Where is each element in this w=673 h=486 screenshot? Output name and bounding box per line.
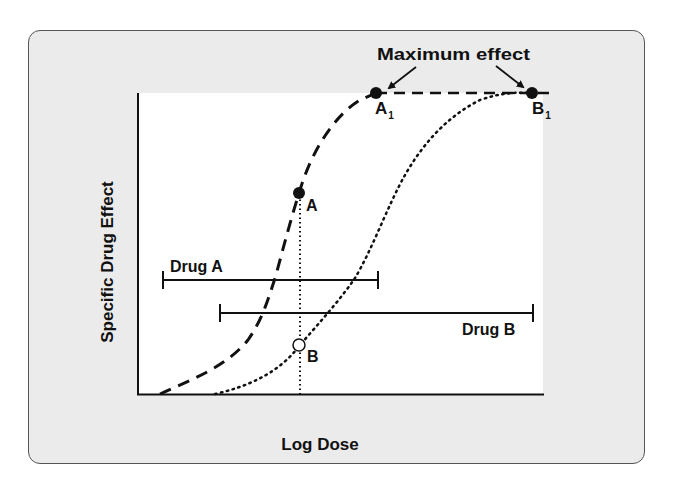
dose-response-chart: Maximum effect A1 B1 A B Drug A Drug B L… — [0, 0, 673, 486]
point-a1-marker — [370, 87, 382, 99]
point-b1-marker — [526, 87, 538, 99]
plot-area — [138, 93, 543, 394]
point-b-marker — [293, 339, 305, 351]
point-a-marker — [293, 187, 305, 199]
drug-a-label: Drug A — [170, 258, 223, 275]
arrow-to-a1-icon — [389, 67, 416, 88]
arrow-to-b1-icon — [496, 66, 523, 87]
point-a-label: A — [306, 197, 318, 214]
x-axis-label: Log Dose — [281, 435, 358, 454]
maximum-effect-label: Maximum effect — [377, 45, 530, 64]
y-axis-label: Specific Drug Effect — [98, 181, 117, 343]
point-b1-label: B1 — [532, 99, 551, 121]
point-b-label: B — [307, 348, 319, 365]
drug-b-label: Drug B — [462, 321, 515, 338]
